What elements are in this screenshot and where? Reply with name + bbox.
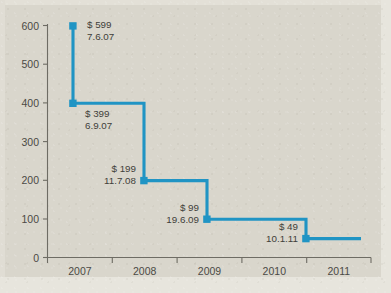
point-annotation: $ 599 7.6.07 bbox=[87, 19, 114, 42]
annotation-price: $ 599 bbox=[87, 19, 112, 30]
x-tick-label: 2009 bbox=[198, 265, 222, 277]
point-annotation: $ 399 6.9.07 bbox=[85, 108, 112, 131]
data-point-marker[interactable] bbox=[140, 177, 147, 184]
point-annotation: $ 99 19.6.09 bbox=[166, 202, 199, 225]
annotation-price: $ 99 bbox=[180, 202, 199, 213]
chart-page: 600 500 400 300 200 100 0 2007 2008 bbox=[0, 0, 391, 293]
step-chart: 600 500 400 300 200 100 0 2007 2008 bbox=[0, 0, 391, 293]
annotation-date: 10.1.11 bbox=[266, 233, 298, 244]
point-annotation: $ 199 11.7.08 bbox=[104, 163, 137, 186]
y-tick-label: 600 bbox=[21, 20, 39, 32]
point-annotation: $ 49 10.1.11 bbox=[266, 221, 298, 244]
annotation-date: 6.9.07 bbox=[85, 120, 112, 131]
y-tick-label: 300 bbox=[21, 136, 39, 148]
data-point-marker[interactable] bbox=[69, 100, 76, 107]
y-axis-labels: 600 500 400 300 200 100 0 bbox=[21, 20, 39, 264]
y-tick-label: 400 bbox=[21, 97, 39, 109]
data-point-marker[interactable] bbox=[69, 22, 76, 29]
annotation-price: $ 199 bbox=[111, 163, 136, 174]
data-point-marker[interactable] bbox=[302, 235, 309, 242]
x-axis-ticks bbox=[48, 258, 372, 264]
y-tick-label: 100 bbox=[21, 213, 39, 225]
data-point-marker[interactable] bbox=[203, 216, 210, 223]
y-tick-label: 0 bbox=[33, 252, 39, 264]
x-axis-labels: 2007 2008 2009 2010 2011 bbox=[68, 265, 350, 277]
annotation-price: $ 399 bbox=[85, 108, 110, 119]
chart-svg: 600 500 400 300 200 100 0 2007 2008 bbox=[0, 0, 391, 293]
annotation-date: 19.6.09 bbox=[166, 214, 199, 225]
x-tick-label: 2008 bbox=[133, 265, 157, 277]
x-tick-label: 2007 bbox=[68, 265, 92, 277]
annotation-date: 11.7.08 bbox=[104, 175, 137, 186]
y-tick-label: 500 bbox=[21, 58, 39, 70]
annotation-date: 7.6.07 bbox=[87, 31, 114, 42]
annotation-price: $ 49 bbox=[279, 221, 298, 232]
x-tick-label: 2010 bbox=[263, 265, 287, 277]
step-line-path bbox=[73, 26, 361, 239]
y-tick-label: 200 bbox=[21, 174, 39, 186]
x-tick-label: 2011 bbox=[328, 265, 351, 277]
y-axis-ticks bbox=[43, 26, 48, 258]
